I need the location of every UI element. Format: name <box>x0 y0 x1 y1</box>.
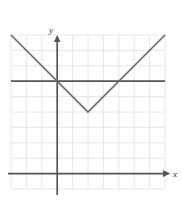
figure-background <box>0 0 181 207</box>
coordinate-grid-figure: y x <box>0 0 181 207</box>
y-axis-label: y <box>48 25 53 35</box>
graph-canvas: y x <box>0 0 181 207</box>
x-axis-label: x <box>172 169 177 179</box>
